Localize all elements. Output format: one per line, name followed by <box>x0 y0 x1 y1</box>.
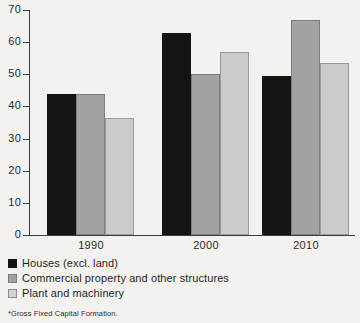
bar <box>320 63 349 235</box>
bar-group <box>47 10 135 235</box>
y-tick-label: 50 <box>0 68 21 79</box>
legend-item-houses: Houses (excl. land) <box>8 256 352 270</box>
y-tick-label: 10 <box>0 197 21 208</box>
y-tick-label: 70 <box>0 4 21 15</box>
bar <box>291 20 320 235</box>
legend: Houses (excl. land) Commercial property … <box>8 256 352 301</box>
bar <box>220 52 249 235</box>
bar <box>47 94 76 235</box>
bar <box>191 74 220 235</box>
y-tick-mark <box>23 235 29 236</box>
legend-swatch-icon-commercial <box>8 274 17 283</box>
legend-item-commercial: Commercial property and other structures <box>8 271 352 285</box>
legend-label-houses: Houses (excl. land) <box>22 257 118 269</box>
bar-group <box>162 10 250 235</box>
plot-area: 010203040506070 199020002010 <box>0 0 360 248</box>
bar-chart: 010203040506070 199020002010 Houses (exc… <box>0 0 360 323</box>
bar <box>76 94 105 235</box>
y-tick-label: 20 <box>0 165 21 176</box>
legend-swatch-icon-houses <box>8 259 17 268</box>
y-tick-label: 0 <box>0 229 21 240</box>
bar <box>105 118 134 235</box>
legend-item-plant: Plant and machinery <box>8 286 352 300</box>
y-tick-label: 40 <box>0 100 21 111</box>
bars-layer <box>29 10 355 235</box>
x-axis-line <box>29 235 355 236</box>
legend-label-plant: Plant and machinery <box>22 287 124 299</box>
legend-label-commercial: Commercial property and other structures <box>22 272 229 284</box>
y-tick-label: 30 <box>0 133 21 144</box>
x-axis-group-label: 2000 <box>162 239 250 251</box>
legend-swatch-icon-plant <box>8 289 17 298</box>
x-axis-group-label: 2010 <box>262 239 350 251</box>
bar <box>262 76 291 235</box>
bar-group <box>262 10 350 235</box>
y-tick-label: 60 <box>0 36 21 47</box>
bar <box>162 33 191 236</box>
x-axis-group-label: 1990 <box>47 239 135 251</box>
footnote: *Gross Fixed Capital Formation. <box>8 309 118 318</box>
